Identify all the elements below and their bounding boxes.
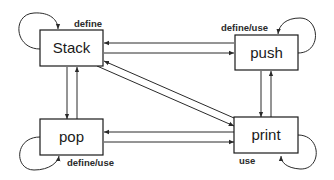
node-pop-label: pop — [59, 128, 84, 145]
label-push-self-loop: define/use — [221, 22, 268, 33]
node-pop[interactable]: pop — [40, 119, 103, 155]
node-print[interactable]: print — [234, 117, 298, 153]
node-push-label: push — [250, 44, 283, 61]
label-stack-self-loop: define — [74, 18, 102, 29]
node-stack-label: Stack — [53, 39, 91, 56]
label-print-self-loop: use — [239, 155, 255, 166]
node-push[interactable]: push — [235, 35, 298, 70]
edge-stack-to-print — [97, 66, 234, 126]
node-print-label: print — [251, 126, 281, 143]
edge-print-to-stack — [104, 61, 234, 118]
state-diagram: Stack push pop print define define/use d… — [0, 0, 334, 180]
label-pop-self-loop: define/use — [67, 157, 114, 168]
node-stack[interactable]: Stack — [40, 30, 103, 66]
